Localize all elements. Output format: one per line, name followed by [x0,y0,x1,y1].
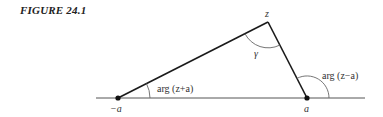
label-arg-z-plus-a: arg (z+a) [157,83,193,95]
arc-arg-z-plus-a [147,84,151,98]
point-a [304,95,309,100]
segment-a-to-z [268,22,307,98]
triangle-diagram: z −a a γ arg (z+a) arg (z−a) [0,0,383,117]
label-z: z [264,8,269,19]
point-minus-a [115,95,120,100]
label-a: a [304,103,309,114]
label-minus-a: −a [110,103,122,114]
label-arg-z-minus-a: arg (z−a) [322,70,358,82]
label-gamma: γ [254,48,259,59]
